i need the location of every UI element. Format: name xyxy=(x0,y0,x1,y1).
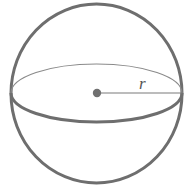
center-point xyxy=(93,89,101,97)
radius-label: r xyxy=(139,74,146,93)
equator-back-arc xyxy=(11,64,182,93)
equator-front-arc xyxy=(11,93,182,122)
sphere-diagram: r xyxy=(0,0,187,194)
